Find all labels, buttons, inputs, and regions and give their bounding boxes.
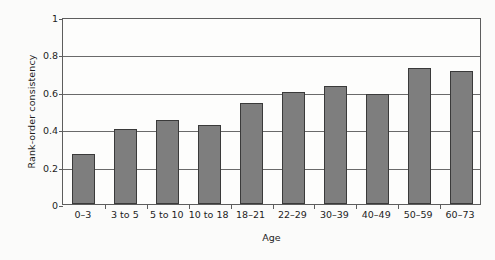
bar (408, 68, 431, 205)
x-axis-tick-label: 50–59 (404, 209, 433, 220)
bar (282, 92, 305, 204)
x-axis-tick-label: 30–39 (320, 209, 349, 220)
y-axis-tick-label: 0.8 (43, 50, 58, 61)
y-axis-tick-mark (59, 206, 63, 207)
y-axis-tick-label: 0 (52, 200, 58, 211)
y-axis-tick-label: 0.2 (43, 162, 58, 173)
x-axis-tick-label: 22–29 (278, 209, 307, 220)
plot-area (62, 18, 481, 205)
bar-chart-figure: Rank-order consistency 00.20.40.60.81 0–… (0, 0, 495, 260)
bar (450, 71, 473, 204)
y-axis-tick-label: 1 (52, 13, 58, 24)
y-axis-tick-label: 0.6 (43, 87, 58, 98)
x-axis-tick-label: 40–49 (362, 209, 391, 220)
x-axis-tick-label: 5 to 10 (150, 209, 184, 220)
bar (198, 125, 221, 204)
x-axis-tick-label: 0–3 (75, 209, 92, 220)
bar (114, 129, 137, 204)
bar (366, 94, 389, 204)
y-axis-tick-label: 0.4 (43, 125, 58, 136)
bar (72, 154, 95, 204)
x-axis-tick-label: 10 to 18 (189, 209, 229, 220)
bar (156, 120, 179, 204)
bar-series (63, 19, 480, 204)
x-axis-title: Age (62, 232, 481, 243)
x-axis-tick-label: 60–73 (446, 209, 475, 220)
x-axis-tick-labels: 0–33 to 55 to 1010 to 1818–2122–2930–394… (62, 209, 481, 227)
y-axis-tick-labels: 00.20.40.60.81 (28, 0, 58, 260)
bar (324, 86, 347, 204)
x-axis-tick-label: 3 to 5 (111, 209, 139, 220)
bar (240, 103, 263, 204)
x-axis-tick-label: 18–21 (236, 209, 265, 220)
